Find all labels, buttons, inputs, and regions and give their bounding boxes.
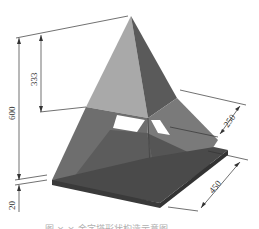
- dim-label-450: 450: [207, 178, 224, 195]
- dim-label-250: 250: [221, 112, 237, 129]
- pyramid-diagram: 333 600 20 250 450 图 × × 金字塔形状构造示意图: [0, 0, 259, 229]
- dim-label-600: 600: [7, 106, 17, 120]
- pyramid: [52, 16, 228, 208]
- dim-label-333: 333: [29, 72, 39, 86]
- figure-caption: 图 × × 金字塔形状构造示意图: [45, 223, 168, 229]
- dim-label-20: 20: [7, 201, 17, 211]
